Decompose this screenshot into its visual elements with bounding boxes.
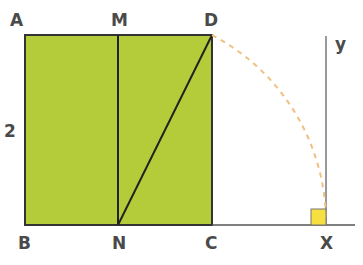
label-a: A bbox=[10, 10, 24, 30]
label-x: X bbox=[320, 233, 333, 253]
label-b: B bbox=[18, 233, 31, 253]
arc-dx bbox=[212, 35, 326, 220]
geometry-diagram: A M D y 2 B N C X bbox=[0, 0, 363, 265]
label-y: y bbox=[335, 34, 346, 54]
label-n: N bbox=[112, 233, 126, 253]
label-d: D bbox=[204, 10, 218, 30]
label-c: C bbox=[205, 233, 217, 253]
label-m: M bbox=[111, 10, 128, 30]
right-angle-marker bbox=[311, 209, 326, 225]
label-side-length: 2 bbox=[4, 121, 16, 141]
